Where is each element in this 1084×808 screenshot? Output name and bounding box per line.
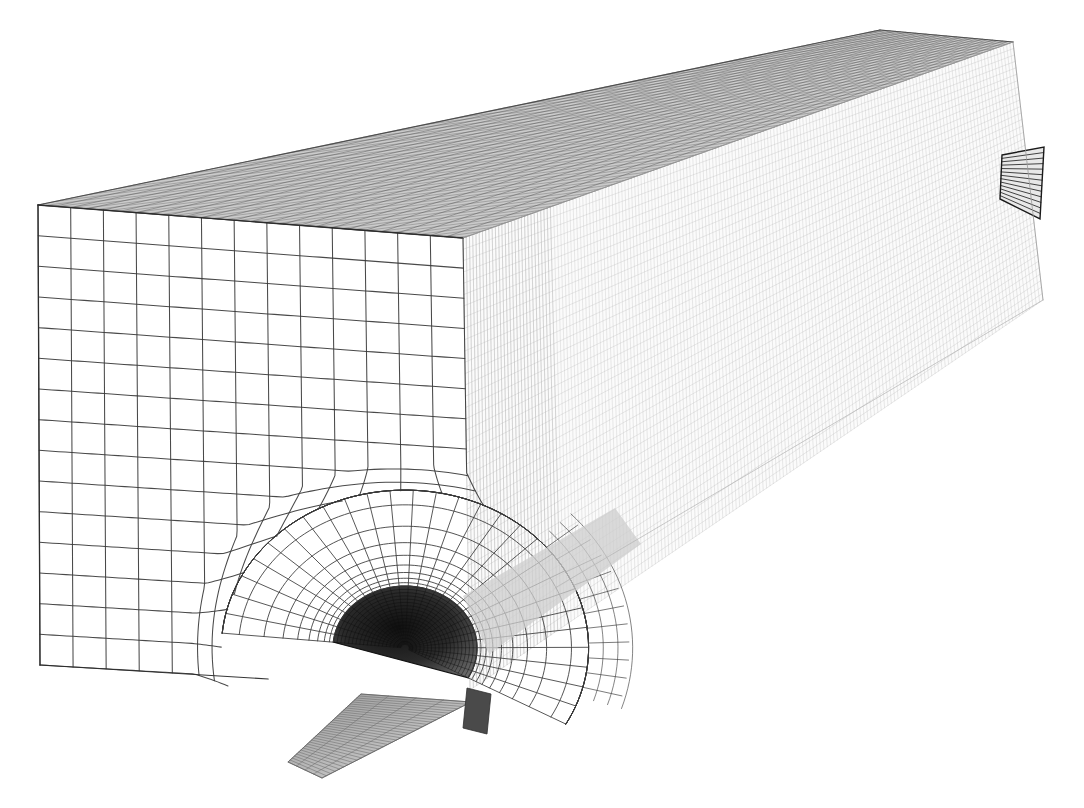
mesh-figure [0, 0, 1084, 808]
mesh-canvas [0, 0, 1084, 808]
fin-web [463, 688, 491, 734]
